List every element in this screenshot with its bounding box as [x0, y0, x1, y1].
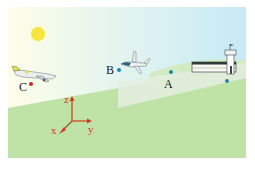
scene-svg [0, 0, 255, 170]
point-b-marker [117, 68, 121, 72]
point-a-marker [169, 70, 173, 74]
point-label-b: B [106, 64, 114, 76]
axis-label-y: y [88, 124, 94, 135]
terminal-point-marker [225, 79, 229, 83]
point-c-marker [29, 82, 33, 86]
sun-icon [31, 27, 45, 41]
airport-scene-diagram: A B C z y x [0, 0, 255, 170]
point-label-c: C [19, 81, 27, 93]
axis-label-x: x [51, 125, 57, 136]
axis-label-z: z [64, 94, 69, 105]
point-label-a: A [164, 78, 173, 90]
